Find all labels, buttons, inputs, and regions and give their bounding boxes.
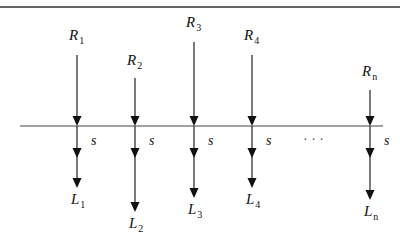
column-n: RnsLn [361, 63, 390, 222]
arrowhead-down-icon [131, 148, 140, 158]
arrowhead-down-icon [131, 116, 140, 126]
columns: R1sL1R2sL2R3sL3R4sL4RnsLn [68, 14, 390, 234]
flow-diagram: R1sL1R2sL2R3sL3R4sL4RnsLn · · · [0, 0, 400, 235]
column-1: R1sL1 [68, 27, 97, 210]
label-s-n: s [384, 133, 390, 148]
arrowhead-down-icon [248, 116, 257, 126]
arrowhead-down-icon [366, 116, 375, 126]
column-4: R4sL4 [243, 27, 272, 210]
ellipsis: · · · [303, 132, 324, 147]
arrowhead-down-icon [131, 202, 140, 212]
diagram-canvas: R1sL1R2sL2R3sL3R4sL4RnsLn · · · [0, 0, 400, 235]
arrowhead-down-icon [248, 178, 257, 188]
label-s-1: s [91, 133, 97, 148]
label-r-3: R3 [185, 14, 201, 33]
arrowhead-down-icon [190, 116, 199, 126]
arrowhead-down-icon [366, 148, 375, 158]
column-2: R2sL2 [126, 52, 155, 234]
label-l-4: L4 [245, 191, 260, 210]
arrowhead-down-icon [73, 148, 82, 158]
label-s-4: s [266, 133, 272, 148]
arrowhead-down-icon [248, 148, 257, 158]
arrowhead-down-icon [190, 148, 199, 158]
label-l-2: L2 [128, 215, 143, 234]
arrowhead-down-icon [73, 178, 82, 188]
label-l-1: L1 [70, 191, 85, 210]
label-r-n: Rn [361, 63, 377, 82]
label-s-2: s [149, 133, 155, 148]
arrowhead-down-icon [190, 188, 199, 198]
arrowhead-down-icon [73, 116, 82, 126]
label-s-3: s [208, 133, 214, 148]
label-r-4: R4 [243, 27, 259, 46]
column-3: R3sL3 [185, 14, 214, 220]
label-r-2: R2 [126, 52, 142, 71]
label-r-1: R1 [68, 27, 84, 46]
label-l-3: L3 [187, 201, 202, 220]
label-l-n: Ln [363, 203, 378, 222]
arrowhead-down-icon [366, 190, 375, 200]
